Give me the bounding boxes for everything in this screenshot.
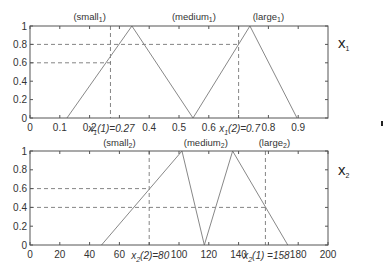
set-label-small: (small2) <box>103 137 135 149</box>
y-tick-label: 0.2 <box>13 221 27 232</box>
axes-frame <box>30 151 328 245</box>
y-tick-label: 0.6 <box>13 183 27 194</box>
x-tick-label: 200 <box>320 249 337 260</box>
x-tick-label: 0 <box>27 122 33 133</box>
variable-label: x2 <box>338 161 350 179</box>
y-tick-label: 0 <box>21 240 27 251</box>
x-tick-label: 0.1 <box>53 122 67 133</box>
y-tick-label: 0.4 <box>13 76 27 87</box>
set-label-medium: (medium1) <box>172 11 216 23</box>
axes-frame <box>30 26 328 118</box>
y-tick-label: 0 <box>21 113 27 124</box>
plot-x1: 00.10.20.40.50.60.80.900.20.40.60.81(sma… <box>13 11 349 136</box>
y-tick-label: 0.2 <box>13 94 27 105</box>
y-tick-label: 1 <box>21 146 27 157</box>
guide-annotation: x2(2)=80 <box>130 250 170 263</box>
x-tick-label: 0.5 <box>172 122 186 133</box>
membership-function-small1-medium1 <box>67 26 193 118</box>
membership-function-medium2-large2 <box>204 151 287 245</box>
membership-function-figure: 00.10.20.40.50.60.80.900.20.40.60.81(sma… <box>0 0 386 269</box>
set-label-medium: (medium2) <box>184 137 228 149</box>
set-label-large: (large2) <box>259 137 290 149</box>
margin-artifact-mark <box>381 121 383 126</box>
x-tick-label: 20 <box>54 249 66 260</box>
x-tick-label: 0.8 <box>261 122 275 133</box>
x-tick-label: 0 <box>27 249 33 260</box>
x-tick-label: 0.9 <box>291 122 305 133</box>
set-label-small: (small1) <box>73 11 105 23</box>
membership-function-medium1-large1 <box>193 26 297 118</box>
y-tick-label: 1 <box>21 21 27 32</box>
membership-function-small2-medium2 <box>102 151 205 245</box>
y-tick-label: 0.4 <box>13 202 27 213</box>
plot-x2: 020406010012014018020000.20.40.60.81(sma… <box>13 137 349 263</box>
x-tick-label: 60 <box>114 249 126 260</box>
x-tick-label: 120 <box>200 249 217 260</box>
y-tick-label: 0.6 <box>13 57 27 68</box>
guide-annotation: x2(1) =158 <box>242 250 290 263</box>
x-tick-label: 0.4 <box>142 122 156 133</box>
set-label-large: (large1) <box>253 11 284 23</box>
x-tick-label: 100 <box>171 249 188 260</box>
x-tick-label: 0.6 <box>202 122 216 133</box>
y-tick-label: 0.8 <box>13 164 27 175</box>
x-tick-label: 40 <box>84 249 96 260</box>
y-tick-label: 0.8 <box>13 39 27 50</box>
x-tick-label: 180 <box>290 249 307 260</box>
guide-annotation: x1(2)=0.7 <box>218 123 260 136</box>
variable-label: x1 <box>338 34 350 52</box>
